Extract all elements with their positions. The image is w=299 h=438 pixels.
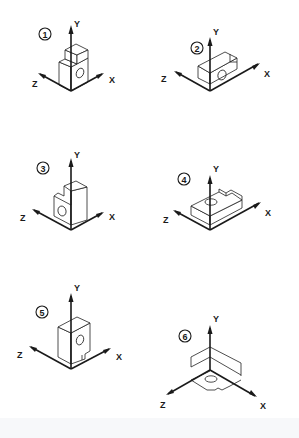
y-axis-label: Y — [74, 150, 80, 160]
x-axis-label: X — [116, 352, 122, 362]
panel-number-badge: 1 — [39, 28, 51, 40]
panel-number-badge: 4 — [178, 173, 190, 185]
panel-5: 5 Y Z X — [17, 283, 122, 369]
block-shape — [191, 189, 242, 225]
y-axis-label: Y — [213, 314, 219, 324]
page-bottom-margin — [0, 418, 299, 438]
z-axis-label: Z — [32, 79, 38, 89]
panel-2: 2 Y Z X — [161, 27, 270, 91]
panel-number: 4 — [181, 175, 186, 185]
panel-4: 4 Y Z X — [163, 164, 271, 230]
panel-number: 3 — [40, 164, 45, 174]
z-axis-label: Z — [163, 215, 169, 225]
x-axis-label: X — [109, 212, 115, 222]
panel-number: 6 — [182, 332, 187, 342]
x-axis-label: X — [265, 208, 271, 218]
panel-number-badge: 3 — [37, 162, 49, 174]
y-axis-label: Y — [74, 283, 80, 293]
isometric-views-diagram: 1 Y Z X — [0, 0, 299, 438]
panel-3: 3 Y Z X — [20, 150, 115, 230]
z-axis-label: Z — [17, 350, 23, 360]
z-axis-label: Z — [161, 74, 167, 84]
z-axis-label: Z — [160, 400, 166, 410]
panel-6: 6 Y Z X — [160, 314, 266, 411]
panel-number-badge: 2 — [191, 42, 203, 54]
block-shape — [58, 317, 90, 364]
panel-number-badge: 5 — [36, 306, 48, 318]
panel-1: 1 Y Z X — [32, 19, 115, 91]
panel-number: 1 — [42, 30, 47, 40]
panel-number-badge: 6 — [179, 330, 191, 342]
panel-number: 2 — [194, 44, 199, 54]
x-axis-label: X — [260, 401, 266, 411]
y-axis-label: Y — [213, 27, 219, 37]
x-axis-label: X — [109, 75, 115, 85]
z-axis-label: Z — [20, 213, 26, 223]
y-axis-label: Y — [213, 164, 219, 174]
y-axis-label: Y — [74, 19, 80, 29]
panel-number: 5 — [39, 308, 44, 318]
x-axis-label: X — [264, 69, 270, 79]
